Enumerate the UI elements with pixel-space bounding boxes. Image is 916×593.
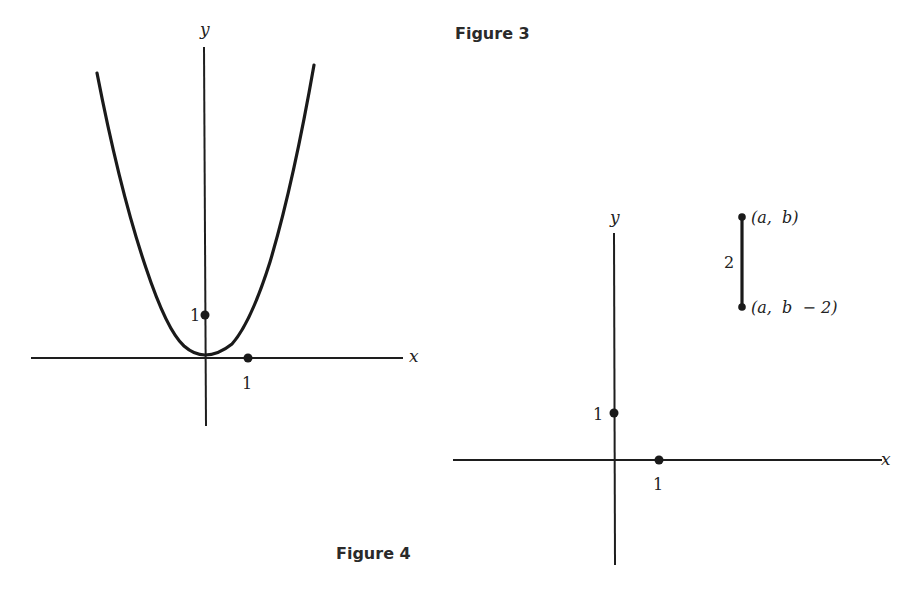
y-unit-point [201,311,210,320]
x-axis-label: x [409,346,419,366]
figure-3-graph: 1 1 y x [31,19,419,426]
y-axis-label: y [199,19,210,39]
x-axis-label: x [881,449,891,469]
y-axis [614,233,615,565]
figure-4-caption: Figure 4 [336,544,411,563]
y-axis-label: y [609,207,620,227]
point-a-b [738,213,746,221]
point-a-b-minus-2 [738,303,746,311]
x-unit-point [244,354,253,363]
point-a-b-minus-2-label: (a, b − 2) [751,298,837,317]
segment-length-label: 2 [724,253,734,272]
y-tick-label: 1 [593,405,603,424]
y-axis [204,47,206,426]
y-tick-label: 1 [190,306,200,325]
x-tick-label: 1 [653,475,663,494]
figure-4-graph: 1 1 y x (a, b) (a, b − 2) 2 [453,207,891,565]
x-unit-point [655,456,664,465]
figure-3-caption: Figure 3 [455,24,530,43]
y-unit-point [610,409,619,418]
point-a-b-label: (a, b) [751,208,799,227]
x-tick-label: 1 [242,374,252,393]
figure-canvas: 1 1 y x Figure 3 1 1 y x (a, b) (a, b − … [0,0,916,593]
